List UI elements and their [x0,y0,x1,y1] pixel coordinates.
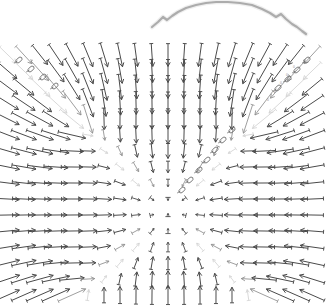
figure-container: 00000 [0,0,328,307]
tiny-value-label: 0 [267,98,269,102]
tiny-value-label: 0 [286,73,288,77]
vector-field-plot: 00000 [0,0,328,307]
tiny-value-label: 0 [274,90,276,94]
tiny-value-label: 0 [293,65,295,69]
tiny-value-label: 0 [280,81,282,85]
plot-background [0,0,328,307]
